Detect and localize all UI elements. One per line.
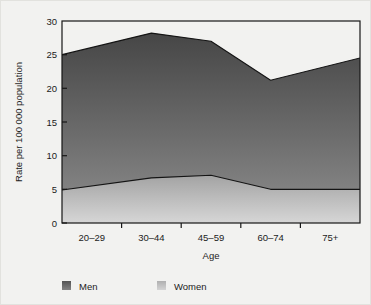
x-tick-label: 60–74 — [257, 232, 283, 243]
y-axis-title: Rate per 100 000 population — [13, 62, 24, 182]
legend-item-women: Women — [157, 281, 207, 292]
x-axis-title: Age — [203, 250, 220, 261]
y-tick-label: 25 — [46, 49, 57, 60]
y-tick-label: 5 — [52, 184, 57, 195]
y-tick-label: 0 — [52, 218, 57, 229]
legend-label-women: Women — [174, 281, 207, 292]
y-tick-label: 20 — [46, 83, 57, 94]
x-tick-label: 30–44 — [138, 232, 164, 243]
x-axis: 20–29 30–44 45–59 60–74 75+ — [79, 223, 339, 243]
rate-by-age-area-chart: 0 5 10 15 20 25 30 — [0, 0, 371, 305]
chart-legend: Men Women — [62, 281, 207, 292]
x-tick-label: 20–29 — [79, 232, 105, 243]
legend-swatch-men — [62, 281, 71, 290]
y-tick-label: 30 — [46, 16, 57, 27]
legend-label-men: Men — [79, 281, 97, 292]
x-tick-label: 75+ — [322, 232, 339, 243]
legend-swatch-women — [157, 281, 166, 290]
y-tick-group-6: 30 — [46, 16, 57, 27]
chart-figure: 0 5 10 15 20 25 30 — [0, 0, 371, 305]
y-tick-label: 15 — [46, 117, 57, 128]
y-tick-label: 10 — [46, 150, 57, 161]
legend-item-men: Men — [62, 281, 97, 292]
plot-area — [62, 33, 360, 223]
x-tick-label: 45–59 — [198, 232, 224, 243]
